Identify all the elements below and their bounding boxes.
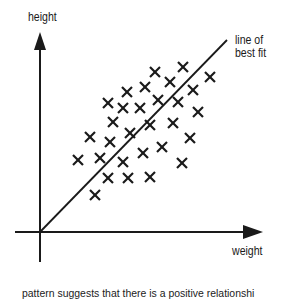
- x-axis: [15, 225, 263, 239]
- cross-marker-icon: [145, 120, 155, 130]
- cross-marker-icon: [118, 103, 128, 113]
- cross-marker-icon: [103, 173, 113, 183]
- cross-marker-icon: [140, 82, 150, 92]
- cross-marker-icon: [153, 95, 163, 105]
- cross-marker-icon: [118, 157, 128, 167]
- cross-marker-icon: [205, 72, 215, 82]
- cross-marker-icon: [123, 173, 133, 183]
- cross-marker-icon: [108, 117, 118, 127]
- cross-marker-icon: [165, 77, 175, 87]
- cross-marker-icon: [150, 67, 160, 77]
- cross-marker-icon: [173, 97, 183, 107]
- cross-marker-icon: [145, 172, 155, 182]
- cross-marker-icon: [73, 155, 83, 165]
- x-axis-arrow-icon: [243, 225, 263, 239]
- y-axis-arrow-icon: [34, 32, 46, 50]
- cross-marker-icon: [90, 190, 100, 200]
- cross-marker-icon: [122, 87, 132, 97]
- cross-marker-icon: [168, 118, 178, 128]
- cross-marker-icon: [138, 148, 148, 158]
- cross-marker-icon: [95, 153, 105, 163]
- cross-marker-icon: [177, 158, 187, 168]
- data-points: [73, 62, 215, 200]
- cross-marker-icon: [85, 132, 95, 142]
- cross-marker-icon: [125, 128, 135, 138]
- cross-marker-icon: [193, 107, 203, 117]
- cross-marker-icon: [178, 62, 188, 72]
- cross-marker-icon: [185, 133, 195, 143]
- cross-marker-icon: [135, 103, 145, 113]
- cross-marker-icon: [188, 85, 198, 95]
- cross-marker-icon: [157, 142, 167, 152]
- cross-marker-icon: [105, 137, 115, 147]
- cross-marker-icon: [103, 98, 113, 108]
